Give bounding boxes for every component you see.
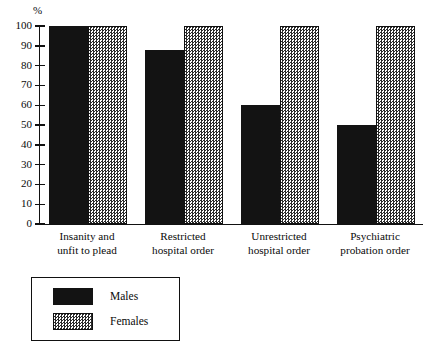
bar-males-3 [241,105,280,224]
y-axis-tick-label: 100 [16,19,33,32]
legend-item-females: Females [53,313,148,330]
y-axis-tick-label: 40 [21,138,32,151]
legend-swatch-males-icon [53,288,93,305]
x-axis-label-3: Unrestrictedhospital order [231,229,327,257]
bar-males-1 [49,26,88,224]
bar-males-4 [337,125,376,224]
legend-label-males: Males [110,290,138,303]
x-axis-category-labels: Insanity andunfit to pleadRestrictedhosp… [39,229,423,263]
x-axis-label-1: Insanity andunfit to plead [39,229,135,257]
y-axis-tick-label: 50 [21,118,32,131]
legend-label-females: Females [110,315,148,328]
y-axis-tick-label: 80 [21,59,32,72]
x-axis-label-2: Restrictedhospital order [135,229,231,257]
bar-females-4 [376,26,415,224]
y-axis-tick-label: 10 [21,197,32,210]
y-axis-tick-label: 30 [21,158,32,171]
y-axis-unit-label: % [33,5,42,16]
y-axis-tick-label: 90 [21,39,32,52]
y-axis-tick-label: 60 [21,98,32,111]
x-axis-label-4: Psychiatricprobation order [327,229,423,257]
bar-females-1 [88,26,127,224]
bar-chart: % 0102030405060708090100 Insanity andunf… [0,0,437,353]
bar-females-3 [280,26,319,224]
plot-area: 0102030405060708090100 [39,27,423,225]
legend: Males Females [31,277,180,341]
y-axis-tick-label: 20 [21,177,32,190]
legend-item-males: Males [53,288,138,305]
bars-layer [40,27,423,224]
bar-females-2 [184,26,223,224]
y-axis-tick-label: 70 [21,78,32,91]
legend-swatch-females-icon [53,313,93,330]
y-axis-tick-label: 0 [27,217,33,230]
bar-males-2 [145,50,184,224]
